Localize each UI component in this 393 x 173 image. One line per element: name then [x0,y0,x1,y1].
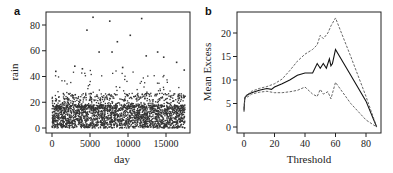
svg-text:15000: 15000 [154,138,179,149]
panel-b-x-label: Threshold [287,153,332,165]
panel-b: b 05101520 020406080 Threshold Mean Exce… [201,5,381,165]
svg-text:20: 20 [221,28,231,39]
rain-scatter-points [51,16,185,128]
svg-text:5: 5 [226,98,231,109]
svg-text:10: 10 [221,75,231,86]
panel-a-label: a [14,5,21,17]
svg-text:60: 60 [331,138,341,149]
figure: a 020406080 050001000015000 day rain b 0… [0,0,393,173]
svg-text:80: 80 [361,138,371,149]
panel-a-y-axis: 020406080 [30,20,46,134]
svg-text:5000: 5000 [80,138,100,149]
svg-text:0: 0 [50,138,55,149]
svg-text:60: 60 [30,45,40,56]
svg-text:20: 20 [270,138,280,149]
panel-a-y-label: rain [8,63,20,81]
panel-b-y-label: Mean Excess [201,43,213,101]
svg-text:0: 0 [242,138,247,149]
svg-text:80: 80 [30,20,40,31]
svg-text:15: 15 [221,51,231,62]
panel-a-x-axis: 050001000015000 [50,133,179,149]
panel-a: a 020406080 050001000015000 day rain [8,5,190,165]
panel-b-x-axis: 020406080 [242,133,372,149]
panel-b-y-axis: 05101520 [221,28,237,133]
mean-excess-lines [244,18,377,127]
svg-text:20: 20 [30,97,40,108]
svg-text:40: 40 [30,71,40,82]
svg-text:10000: 10000 [116,138,141,149]
panel-a-x-label: day [114,153,130,165]
panel-b-label: b [205,5,212,17]
svg-text:0: 0 [35,123,40,134]
svg-text:0: 0 [226,122,231,133]
svg-text:40: 40 [300,138,310,149]
